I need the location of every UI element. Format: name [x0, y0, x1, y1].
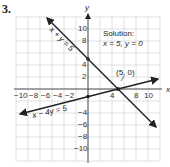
svg-text:8: 8 [134, 91, 139, 100]
svg-text:10: 10 [78, 24, 87, 33]
solution-title: Solution: [103, 29, 134, 38]
svg-text:−8: −8 [78, 132, 88, 141]
svg-text:−2: −2 [65, 91, 75, 100]
svg-text:−10: −10 [74, 144, 88, 153]
svg-text:−6: −6 [41, 91, 51, 100]
graph: y x −10 −8 −6 −4 −2 4 8 10 10 8 4 2 −4 −… [0, 0, 170, 167]
x-axis-label: x [165, 85, 170, 94]
intersection-point [116, 87, 120, 91]
svg-text:−10: −10 [14, 91, 28, 100]
y-intercept-point-line1 [86, 57, 90, 61]
y-axis-label: y [84, 3, 90, 12]
solution-value: x = 5, y = 0 [102, 39, 143, 48]
svg-text:−4: −4 [78, 108, 88, 117]
svg-text:10: 10 [144, 91, 153, 100]
svg-text:−6: −6 [78, 120, 88, 129]
svg-text:2: 2 [82, 72, 87, 81]
svg-text:−8: −8 [29, 91, 39, 100]
svg-text:4: 4 [82, 60, 87, 69]
svg-text:−4: −4 [53, 91, 63, 100]
intersection-label: (5, 0) [116, 68, 135, 77]
svg-text:4: 4 [110, 91, 115, 100]
x-tick-labels: −10 −8 −6 −4 −2 4 8 10 [14, 91, 153, 100]
svg-text:8: 8 [82, 36, 87, 45]
y-intercept-point-line2 [86, 95, 90, 99]
